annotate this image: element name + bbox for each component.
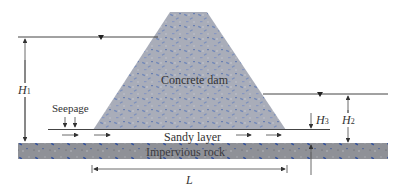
dam-diagram (0, 0, 404, 190)
h2-label: H2 (342, 113, 355, 127)
rock-label: Impervious rock (146, 146, 225, 158)
seepage-label: Seepage (52, 103, 89, 114)
dam-label: Concrete dam (161, 74, 228, 86)
l-label: L (186, 174, 193, 186)
h3-label: H3 (316, 114, 329, 126)
h1-label: H1 (18, 83, 31, 97)
concrete-dam (93, 12, 286, 130)
sandy-layer-label: Sandy layer (164, 131, 221, 143)
